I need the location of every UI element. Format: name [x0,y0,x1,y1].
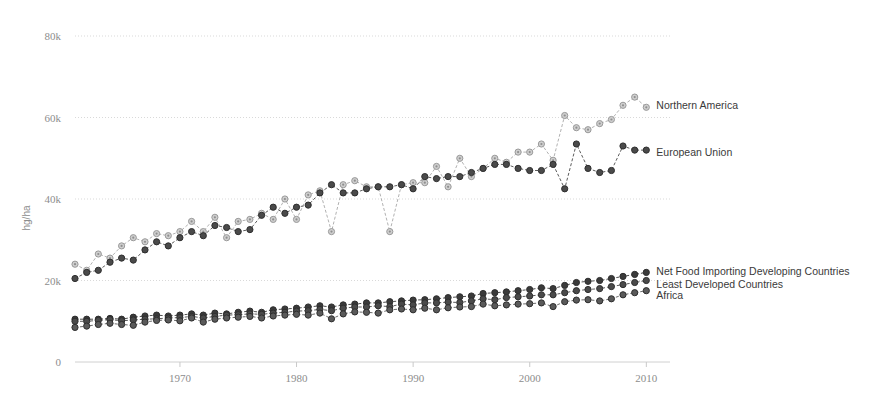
data-point [632,279,638,285]
data-point [375,310,381,316]
data-point [293,311,299,317]
series-label-net-food-importing-developing-countries: Net Food Importing Developing Countries [656,265,849,277]
data-point [200,233,206,239]
data-point [643,288,649,294]
data-point [422,305,428,311]
data-point-center [179,231,181,233]
data-point-center [354,180,356,182]
data-point [527,286,533,292]
data-point [328,308,334,314]
data-point [538,285,544,291]
data-point [212,222,218,228]
data-point [527,167,533,173]
data-point [95,321,101,327]
data-point [597,277,603,283]
data-point [387,307,393,313]
data-series-group [72,94,650,331]
data-point [130,257,136,263]
data-point [84,269,90,275]
data-point [189,315,195,321]
data-point [643,147,649,153]
data-point [154,239,160,245]
data-point [608,284,614,290]
data-point [620,273,626,279]
data-point [573,279,579,285]
data-point-center [529,151,531,153]
data-point [165,317,171,323]
data-point [328,316,334,322]
y-tick-label-60k: 60k [45,112,62,124]
data-point [457,174,463,180]
data-point [468,304,474,310]
data-point [550,161,556,167]
data-point [585,286,591,292]
x-tick-label-2010: 2010 [635,372,658,384]
y-tick-label-80k: 80k [45,30,62,42]
x-tick-label-2000: 2000 [519,372,542,384]
data-point [433,300,439,306]
data-point [84,323,90,329]
data-point-center [424,182,426,184]
data-point-center [645,106,647,108]
data-point [177,235,183,241]
y-tick-label-20k: 20k [45,275,62,287]
data-point-center [249,218,251,220]
data-point [177,318,183,324]
data-point [235,229,241,235]
series-labels-group: Northern AmericaEuropean UnionNet Food I… [656,99,849,300]
data-point-center [237,220,239,222]
data-point [632,147,638,153]
data-point-center [389,231,391,233]
data-point [608,296,614,302]
data-point [608,167,614,173]
series-line [75,97,646,270]
data-point [72,318,78,324]
data-point-center [307,194,309,196]
data-point [445,305,451,311]
data-point [597,169,603,175]
data-point [632,290,638,296]
data-point [352,190,358,196]
data-point [538,300,544,306]
series-european-union [72,141,650,282]
series-line [75,144,646,279]
data-point [119,255,125,261]
x-tick-label-1980: 1980 [286,372,309,384]
data-point [562,282,568,288]
x-tick-label-1970: 1970 [169,372,192,384]
data-point-center [214,216,216,218]
data-point-center [575,127,577,129]
data-point-center [156,233,158,235]
data-point [363,186,369,192]
data-point [492,161,498,167]
data-point-center [342,184,344,186]
data-point [422,174,428,180]
data-point [305,312,311,318]
data-point-center [435,165,437,167]
data-point [492,297,498,303]
data-point [573,141,579,147]
data-point [410,307,416,313]
data-point [643,269,649,275]
data-point [492,290,498,296]
data-point [398,182,404,188]
data-point [119,321,125,327]
y-tick-label-0: 0 [56,356,62,368]
data-point [270,313,276,319]
series-northern-america [72,94,650,273]
series-line [75,291,646,328]
data-point [585,165,591,171]
series-label-northern-america: Northern America [656,99,738,111]
data-point [107,259,113,265]
data-point [305,202,311,208]
data-point [597,286,603,292]
data-point [317,310,323,316]
data-point [282,210,288,216]
line-chart: 020k40k60k80k 19701980199020002010 hg/ha… [0,0,889,418]
data-point-center [459,157,461,159]
data-point [189,229,195,235]
data-point [259,315,265,321]
data-point [433,307,439,313]
data-point [95,267,101,273]
data-point [363,309,369,315]
